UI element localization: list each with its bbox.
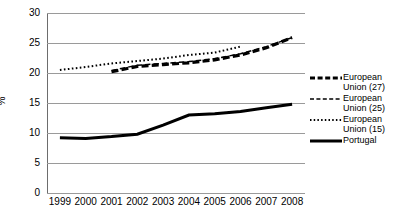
series-line — [112, 38, 293, 72]
y-tick-label: 15 — [14, 98, 40, 108]
legend-item[interactable]: European Union (27) — [310, 72, 396, 92]
legend-item-label: Portugal — [343, 135, 377, 145]
y-axis-label: % — [0, 97, 7, 106]
series-line — [112, 38, 293, 71]
line-chart: % 051015202530 1999200020012002200320042… — [0, 0, 396, 215]
dotted-line-icon — [310, 114, 342, 126]
legend-item[interactable]: European Union (25) — [310, 93, 396, 113]
legend-item-label: European Union (15) — [343, 114, 385, 134]
legend: European Union (27)European Union (25)Eu… — [310, 72, 396, 148]
y-tick-label: 25 — [14, 38, 40, 48]
y-tick-label: 5 — [14, 158, 40, 168]
series-line — [60, 104, 292, 138]
legend-item-label: European Union (27) — [343, 72, 385, 92]
y-tick-label: 30 — [14, 8, 40, 18]
y-tick-label: 0 — [14, 188, 40, 198]
x-tick-label: 2008 — [277, 196, 307, 207]
y-tick-label: 20 — [14, 68, 40, 78]
legend-item[interactable]: Portugal — [310, 135, 396, 147]
y-tick-label: 10 — [14, 128, 40, 138]
legend-item[interactable]: European Union (15) — [310, 114, 396, 134]
plot-area — [47, 13, 305, 193]
gridline — [47, 193, 305, 194]
series-lines — [47, 13, 305, 193]
thin-dashed-line-icon — [310, 93, 342, 105]
thick-solid-line-icon — [310, 135, 342, 147]
legend-item-label: European Union (25) — [343, 93, 385, 113]
thick-dashed-line-icon — [310, 72, 342, 84]
